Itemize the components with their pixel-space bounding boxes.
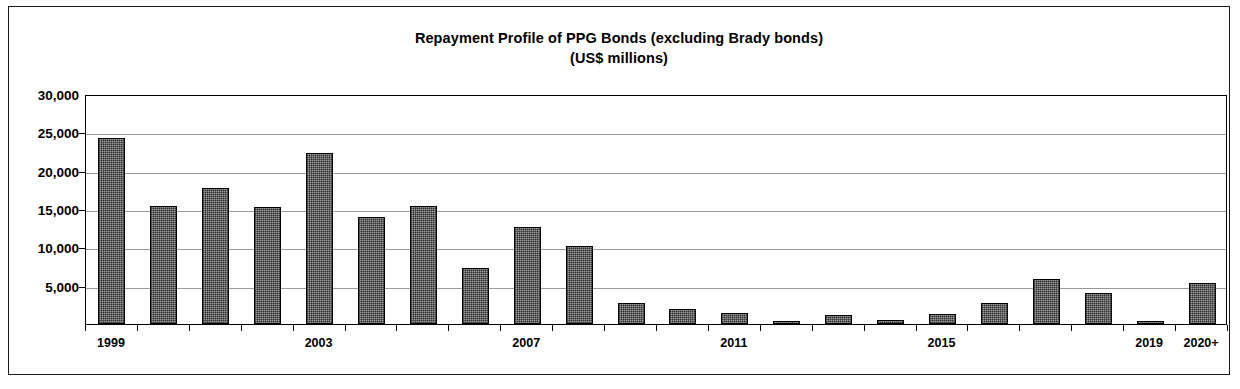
x-axis-ticks <box>85 325 1227 332</box>
x-axis-tick-mark <box>500 325 501 331</box>
bar <box>1137 321 1164 324</box>
x-axis-tick-mark <box>345 325 346 331</box>
bar <box>514 227 541 324</box>
bar <box>825 315 852 324</box>
plot-wrapper: 30,00025,00020,00015,00010,0005,000 1999… <box>9 7 1229 374</box>
bar <box>618 303 645 324</box>
x-axis-tick-mark <box>1019 325 1020 331</box>
bar <box>358 217 385 324</box>
x-axis-tick-mark <box>448 325 449 331</box>
x-axis-tick-mark <box>396 325 397 331</box>
bar <box>721 313 748 324</box>
x-axis-tick-label: 2015 <box>928 336 956 350</box>
x-axis-tick-mark <box>1227 325 1228 331</box>
x-axis-tick-label: 2007 <box>512 336 540 350</box>
y-axis-tick-label: 5,000 <box>5 279 79 294</box>
y-axis-tick-label: 25,000 <box>5 126 79 141</box>
x-axis-tick-mark <box>189 325 190 331</box>
x-axis-tick-mark <box>967 325 968 331</box>
bar <box>929 314 956 324</box>
x-axis-tick-mark <box>552 325 553 331</box>
bar <box>150 206 177 324</box>
chart-figure: Repayment Profile of PPG Bonds (excludin… <box>8 6 1230 375</box>
bar <box>877 320 904 324</box>
bar <box>254 207 281 324</box>
bar <box>98 138 125 324</box>
bar <box>1085 293 1112 324</box>
bar <box>566 246 593 324</box>
x-axis-tick-mark <box>241 325 242 331</box>
y-axis-tick-label: 15,000 <box>5 203 79 218</box>
x-axis-tick-mark <box>137 325 138 331</box>
x-axis-tick-label: 1999 <box>97 336 125 350</box>
bar <box>669 309 696 324</box>
x-axis-tick-mark <box>604 325 605 331</box>
x-axis-tick-mark <box>85 325 86 331</box>
x-axis-tick-mark <box>1175 325 1176 331</box>
bar <box>202 188 229 324</box>
x-axis-tick-mark <box>1071 325 1072 331</box>
x-axis-tick-mark <box>293 325 294 331</box>
x-axis-labels: 1999200320072011201520192020+ <box>9 336 1229 356</box>
y-axis-tick-label: 20,000 <box>5 164 79 179</box>
bar <box>410 206 437 324</box>
x-axis-tick-mark <box>1123 325 1124 331</box>
x-axis-tick-label: 2011 <box>720 336 747 350</box>
bar <box>773 321 800 324</box>
y-axis-labels: 30,00025,00020,00015,00010,0005,000 <box>9 95 79 325</box>
bar <box>1189 283 1216 324</box>
x-axis-tick-mark <box>656 325 657 331</box>
bar <box>1033 279 1060 324</box>
x-axis-tick-mark <box>812 325 813 331</box>
x-axis-tick-mark <box>708 325 709 331</box>
bar <box>981 303 1008 324</box>
plot-area <box>85 95 1227 325</box>
bar-series <box>86 96 1226 324</box>
y-axis-tick-label: 30,000 <box>5 88 79 103</box>
x-axis-tick-mark <box>760 325 761 331</box>
bar <box>462 268 489 324</box>
bar <box>306 153 333 324</box>
x-axis-tick-mark <box>916 325 917 331</box>
x-axis-tick-label: 2020+ <box>1183 336 1218 350</box>
x-axis-tick-mark <box>864 325 865 331</box>
x-axis-tick-label: 2003 <box>305 336 333 350</box>
y-axis-tick-label: 10,000 <box>5 241 79 256</box>
x-axis-tick-label: 2019 <box>1135 336 1163 350</box>
